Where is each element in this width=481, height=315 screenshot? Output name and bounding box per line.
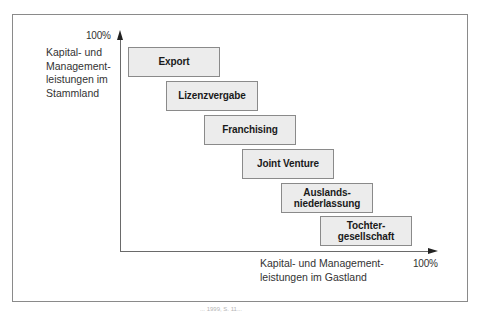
stage-box-franchising: Franchising [204, 115, 296, 145]
y-axis-title-line: Kapital- und [46, 46, 111, 60]
y-axis-title-line: Stammland [46, 87, 111, 101]
stage-box-tochtergesellschaft: Tochter- gesellschaft [320, 216, 412, 246]
stage-box-joint-venture: Joint Venture [242, 149, 334, 179]
x-axis-title: Kapital- und Management- leistungen im G… [260, 257, 384, 284]
y-axis-title: Kapital- und Management- leistungen im S… [46, 46, 111, 100]
stage-box-auslandsniederlassung: Auslands- niederlassung [281, 183, 373, 213]
y-axis-arrow-icon [117, 30, 123, 40]
x-axis-line [120, 251, 430, 252]
x-axis-title-line: leistungen im Gastland [260, 271, 384, 285]
y-axis-line [120, 38, 121, 252]
y-axis-title-line: Management- [46, 60, 111, 74]
stage-box-lizenzvergabe: Lizenzvergabe [166, 81, 258, 111]
source-caption: ... 1999, S. 11... [200, 306, 242, 312]
x-axis-title-line: Kapital- und Management- [260, 257, 384, 271]
x-axis-arrow-icon [428, 248, 438, 254]
stage-box-export: Export [128, 47, 220, 77]
x-axis-max-label: 100% [413, 257, 438, 271]
y-axis-title-line: leistungen im [46, 73, 111, 87]
y-axis-max-label: 100% [86, 29, 111, 43]
